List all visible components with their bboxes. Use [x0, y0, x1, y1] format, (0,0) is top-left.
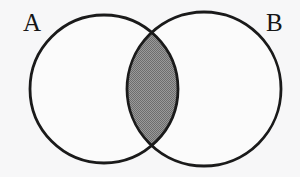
- set-label-a: A: [23, 10, 41, 35]
- venn-diagram-canvas: [0, 0, 300, 177]
- set-label-b: B: [266, 10, 283, 35]
- venn-diagram-figure: A B: [0, 0, 300, 177]
